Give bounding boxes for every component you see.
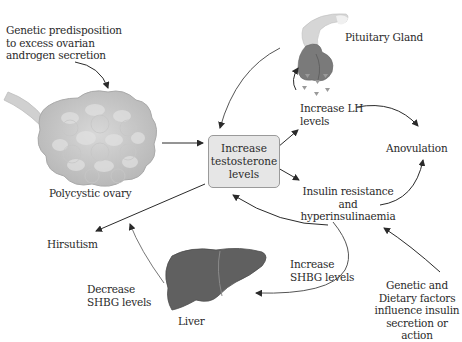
- pituitary-gland-label: Pituitary Gland: [345, 31, 423, 44]
- decrease-shbg-label: Decrease SHBG levels: [87, 283, 151, 308]
- pituitary-gland-icon: [298, 14, 348, 81]
- increase-shbg-label: Increase SHBG levels: [290, 258, 354, 283]
- genetic-predisposition-label: Genetic predisposition to excess ovarian…: [6, 24, 122, 62]
- increase-testosterone-label: Increase testosterone levels: [211, 142, 278, 181]
- increase-testosterone-box: Increase testosterone levels: [208, 135, 280, 188]
- anovulation-label: Anovulation: [386, 142, 447, 155]
- increase-lh-label: Increase LH levels: [300, 102, 363, 127]
- liver-icon: [166, 248, 266, 310]
- hirsutism-label: Hirsutism: [47, 238, 98, 251]
- polycystic-ovary-label: Polycystic ovary: [49, 187, 132, 200]
- ovary-icon: [4, 91, 157, 186]
- genetic-dietary-label: Genetic and Dietary factors influence in…: [372, 279, 462, 342]
- liver-label: Liver: [178, 315, 205, 328]
- insulin-resistance-label: Insulin resistance and hyperinsulinaemia: [300, 185, 396, 223]
